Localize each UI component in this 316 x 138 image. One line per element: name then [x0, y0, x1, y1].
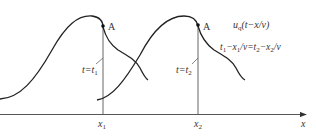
phase-equation: t1−x1/v=t2−x2/v [220, 43, 281, 54]
point-a-label-2: A [203, 22, 210, 32]
time-label-t2: t=t2 [176, 65, 192, 77]
wave-curve-t1 [0, 16, 148, 99]
axis-label-x1: x1 [98, 119, 106, 131]
wave-curve-t2 [97, 16, 245, 100]
point-a-marker-1 [101, 24, 105, 28]
time-label-t1: t=t1 [82, 65, 98, 77]
wave-function-label: uq(t−x/v) [233, 20, 269, 32]
traveling-wave-diagram: A A uq(t−x/v) t1−x1/v=t2−x2/v t=t1 t=t2 … [0, 0, 316, 138]
axis-label-x2: x2 [194, 119, 202, 131]
leader-line-t1 [96, 58, 103, 64]
leader-line-t2 [192, 58, 198, 64]
point-a-marker-2 [196, 23, 200, 27]
point-a-label-1: A [108, 22, 115, 32]
axis-label-x: x [301, 119, 305, 129]
